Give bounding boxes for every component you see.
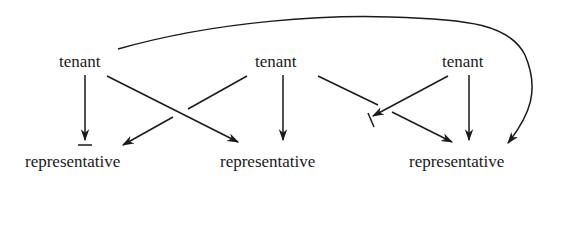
edge-t2-r1-upper: [188, 76, 247, 109]
node-representative-1: representative: [25, 153, 120, 170]
node-representative-2: representative: [220, 153, 315, 170]
edge-t3-block: [373, 76, 448, 116]
edge-t2-r1-lower: [123, 117, 173, 145]
node-tenant-2: tenant: [255, 53, 297, 70]
edge-t2-r3-upper: [318, 76, 378, 105]
node-tenant-3: tenant: [442, 53, 484, 70]
node-tenant-1: tenant: [59, 53, 101, 70]
edge-t2-r3-lower: [392, 112, 452, 142]
node-representative-3: representative: [409, 153, 504, 170]
edge-t1-r2: [107, 76, 238, 142]
